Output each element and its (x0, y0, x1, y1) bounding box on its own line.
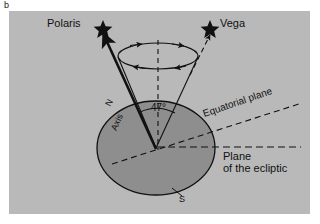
tilt-angle-label: 47° (151, 102, 166, 113)
precession-circle (118, 43, 198, 69)
ecliptic-plane-label-line1: Plane (223, 150, 251, 162)
figure-container: b (0, 0, 320, 224)
precession-arrow-top-left (130, 44, 142, 46)
polaris-label: Polaris (47, 17, 81, 29)
precession-arrow-bottom-left (133, 67, 145, 69)
vega-label: Vega (220, 17, 245, 29)
ecliptic-plane-label-line2: of the ecliptic (223, 162, 287, 174)
south-pole-label: S (179, 194, 185, 204)
